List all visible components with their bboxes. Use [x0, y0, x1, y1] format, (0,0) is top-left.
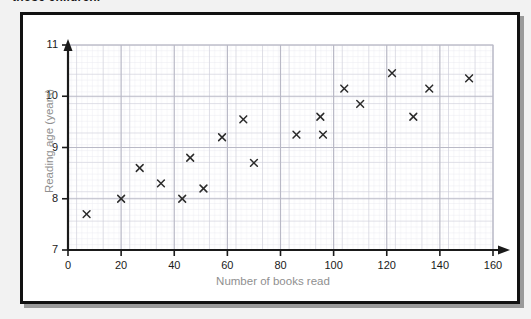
x-tick-label: 120	[372, 259, 402, 271]
cropped-caption: those children.	[0, 0, 531, 9]
scatter-plot: 7891011 020406080100120140160 Reading ag…	[23, 15, 517, 301]
y-axis-title: Reading age (years)	[43, 81, 55, 201]
x-tick-label: 40	[159, 259, 189, 271]
x-tick-label: 160	[478, 259, 508, 271]
y-tick-label: 11	[32, 38, 58, 50]
y-tick-label: 7	[32, 243, 58, 255]
x-tick-label: 140	[425, 259, 455, 271]
x-tick-label: 80	[266, 259, 296, 271]
caption-text: those children.	[12, 0, 100, 4]
x-tick-label: 100	[319, 259, 349, 271]
x-tick-label: 60	[212, 259, 242, 271]
x-tick-label: 0	[53, 259, 83, 271]
x-axis-title: Number of books read	[153, 275, 393, 287]
x-tick-label: 20	[106, 259, 136, 271]
figure-frame: 7891011 020406080100120140160 Reading ag…	[20, 12, 520, 304]
